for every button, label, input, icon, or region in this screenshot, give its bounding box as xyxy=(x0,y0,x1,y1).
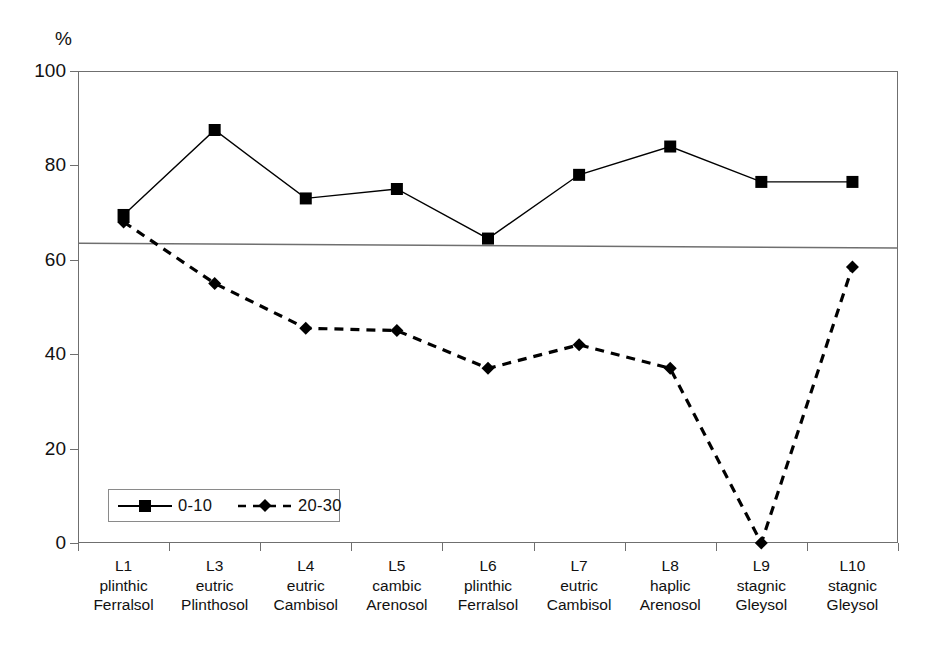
y-axis-tick-label: 80 xyxy=(45,154,66,176)
chart-legend: 0-1020-30 xyxy=(108,489,340,522)
legend-swatch-square-icon xyxy=(117,498,173,514)
x-axis-tick-mark xyxy=(807,543,808,551)
plot-area-frame xyxy=(78,71,898,543)
legend-entry-0-10: 0-10 xyxy=(117,490,212,521)
y-axis-tick-label: 100 xyxy=(34,60,66,82)
y-axis-tick-label: 0 xyxy=(55,532,66,554)
legend-label: 0-10 xyxy=(178,496,212,515)
x-axis-tick-mark xyxy=(534,543,535,551)
chart-container: % 100806040200 L1plinthicFerralsolL3eutr… xyxy=(0,0,946,652)
y-axis-tick-label: 60 xyxy=(45,249,66,271)
x-axis-category-label-line: Gleysol xyxy=(797,595,907,615)
x-axis-category-label-line: stagnic xyxy=(797,576,907,596)
x-axis-tick-mark xyxy=(351,543,352,551)
legend-label: 20-30 xyxy=(298,496,342,515)
x-axis-category-label-line: L10 xyxy=(797,556,907,576)
y-axis-tick-label: 40 xyxy=(45,343,66,365)
x-axis-tick-mark xyxy=(169,543,170,551)
x-axis-category-label: L10stagnicGleysol xyxy=(797,556,907,615)
y-axis-tick-label: 20 xyxy=(45,438,66,460)
x-axis-tick-mark xyxy=(716,543,717,551)
y-axis-tick-label-group: 100806040200 xyxy=(0,0,66,652)
x-axis-tick-mark xyxy=(625,543,626,551)
legend-entry-20-30: 20-30 xyxy=(237,490,342,521)
legend-swatch-diamond-icon xyxy=(237,498,293,514)
x-axis-tick-mark xyxy=(260,543,261,551)
x-axis-tick-mark xyxy=(442,543,443,551)
x-axis-tick-mark xyxy=(78,543,79,551)
x-axis-tick-mark xyxy=(898,543,899,551)
